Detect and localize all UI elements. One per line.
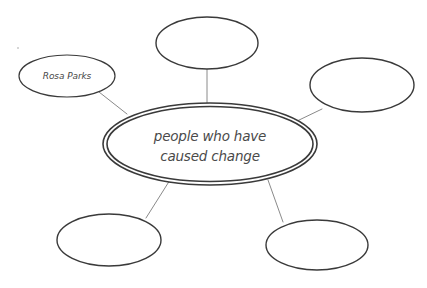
bubble-rosa-parks-label: Rosa Parks bbox=[43, 71, 92, 81]
concept-map-diagram: Rosa Parks people who have caused change bbox=[0, 0, 427, 288]
center-bubble-label-line1: people who have bbox=[153, 128, 266, 144]
bubble-rosa-parks[interactable]: Rosa Parks bbox=[19, 55, 115, 97]
bubble-right[interactable] bbox=[310, 58, 414, 112]
bubble-top[interactable] bbox=[156, 17, 258, 69]
center-bubble-outer-outline bbox=[103, 103, 317, 185]
bubble-top-outline bbox=[156, 17, 258, 69]
connector-rosa-parks bbox=[99, 92, 127, 114]
diagram-canvas: Rosa Parks people who have caused change bbox=[0, 0, 427, 288]
bubble-bottom-left-outline bbox=[57, 214, 161, 266]
center-bubble-label-line2: caused change bbox=[160, 148, 260, 164]
center-bubble[interactable]: people who have caused change bbox=[103, 103, 317, 185]
connector-right bbox=[295, 109, 322, 122]
bubble-bottom-right-outline bbox=[266, 220, 368, 270]
scan-artifact-dot bbox=[17, 47, 19, 49]
connector-bottom-right bbox=[268, 180, 283, 222]
connector-bottom-left bbox=[146, 180, 170, 218]
bubble-right-outline bbox=[310, 58, 414, 112]
bubble-bottom-left[interactable] bbox=[57, 214, 161, 266]
bubble-bottom-right[interactable] bbox=[266, 220, 368, 270]
